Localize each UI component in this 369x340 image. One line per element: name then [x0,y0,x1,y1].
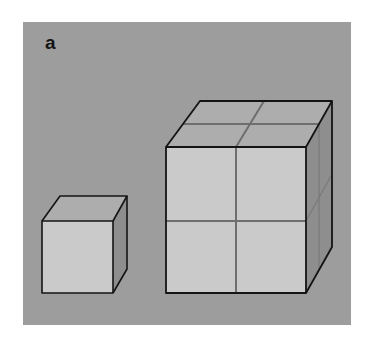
large-cube [166,101,332,293]
cubes-diagram [0,0,369,340]
small-cube [42,196,127,293]
small-cube-front-face [42,221,113,293]
